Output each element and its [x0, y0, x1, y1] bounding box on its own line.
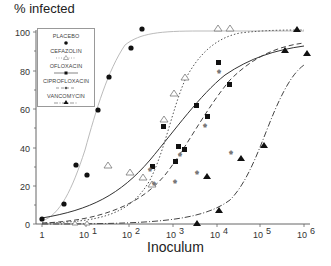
ciprofloxacin-points: * * * * * * * * — [148, 68, 233, 190]
svg-text:*: * — [229, 149, 233, 159]
svg-text:10: 10 — [122, 230, 132, 240]
svg-text:3: 3 — [179, 226, 184, 236]
svg-text:*: * — [178, 151, 182, 161]
ciprofloxacin-marker-icon — [56, 87, 76, 90]
svg-text:1: 1 — [92, 226, 97, 236]
svg-text:10: 10 — [79, 230, 89, 240]
svg-text:0: 0 — [25, 220, 30, 230]
svg-text:20: 20 — [20, 182, 30, 192]
svg-text:100: 100 — [15, 28, 30, 38]
vancomycin-points — [193, 26, 311, 226]
dose-response-chart: % infected Inoculum 100 80 60 40 20 0 — [0, 0, 331, 266]
vancomycin-marker-icon — [54, 100, 78, 104]
svg-text:10: 10 — [210, 230, 220, 240]
svg-text:10: 10 — [166, 230, 176, 240]
y-tick-labels: 100 80 60 40 20 0 — [15, 28, 30, 230]
svg-text:2: 2 — [135, 226, 140, 236]
svg-text:80: 80 — [20, 67, 30, 77]
svg-text:*: * — [148, 166, 152, 176]
svg-text:40: 40 — [20, 144, 30, 154]
ofloxacin-marker-icon — [54, 72, 78, 75]
svg-text:*: * — [152, 180, 156, 190]
legend: PLACEBO CEFAZOLIN OFLOXACIN CIPROFLOXACI… — [37, 28, 95, 107]
cefazolin-marker-icon — [56, 56, 76, 60]
svg-text:1: 1 — [39, 230, 44, 240]
x-tick-labels: 1 10 1 10 2 10 3 10 4 10 5 10 6 — [39, 226, 315, 240]
svg-text:6: 6 — [310, 226, 315, 236]
svg-text:5: 5 — [266, 226, 271, 236]
svg-text:*: * — [173, 178, 177, 188]
legend-symbols — [38, 29, 94, 106]
cefazolin-points — [72, 25, 234, 225]
svg-text:*: * — [203, 122, 207, 132]
svg-text:60: 60 — [20, 105, 30, 115]
svg-text:10: 10 — [297, 230, 307, 240]
placebo-marker-icon — [64, 41, 68, 45]
svg-text:10: 10 — [253, 230, 263, 240]
svg-text:*: * — [195, 169, 199, 179]
svg-text:4: 4 — [223, 226, 228, 236]
svg-text:*: * — [217, 68, 221, 78]
